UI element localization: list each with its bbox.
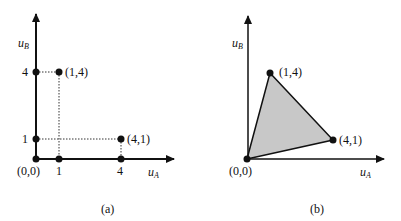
- point-4-1-label: (4,1): [127, 132, 150, 146]
- point-y4: [33, 69, 40, 76]
- caption-a: (a): [101, 202, 114, 216]
- tick-y4: 4: [22, 65, 28, 79]
- origin-label: (0,0): [229, 164, 252, 178]
- point-origin: [33, 156, 40, 163]
- point-origin: [244, 156, 251, 163]
- point-y1: [33, 136, 40, 143]
- point-1-4-label: (1,4): [65, 65, 88, 79]
- x-axis-label: uA: [360, 165, 371, 180]
- data-points: [33, 69, 125, 163]
- point-4-1: [118, 136, 125, 143]
- feasible-region: [247, 73, 333, 159]
- projection-lines: [36, 72, 121, 159]
- point-1-4: [56, 69, 63, 76]
- y-axis-label: uB: [18, 36, 29, 51]
- point-1-4-label: (1,4): [279, 65, 302, 79]
- point-1-4: [267, 70, 274, 77]
- origin-label: (0,0): [17, 164, 40, 178]
- point-x1: [56, 156, 63, 163]
- panel-a: uB uA 4 1 1 4 (0,0) (1,4) (4,1) (a): [17, 14, 174, 216]
- point-4-1-label: (4,1): [339, 133, 362, 147]
- figure: uB uA 4 1 1 4 (0,0) (1,4) (4,1) (a) uB u…: [0, 0, 401, 221]
- x-axis-label: uA: [148, 165, 159, 180]
- y-axis-label: uB: [232, 36, 243, 51]
- caption-b: (b): [310, 202, 324, 216]
- tick-x1: 1: [56, 164, 62, 178]
- tick-x4: 4: [117, 164, 123, 178]
- tick-y1: 1: [22, 132, 28, 146]
- point-4-1: [330, 137, 337, 144]
- point-x4: [118, 156, 125, 163]
- panel-b: uB uA (0,0) (1,4) (4,1) (b): [229, 16, 384, 216]
